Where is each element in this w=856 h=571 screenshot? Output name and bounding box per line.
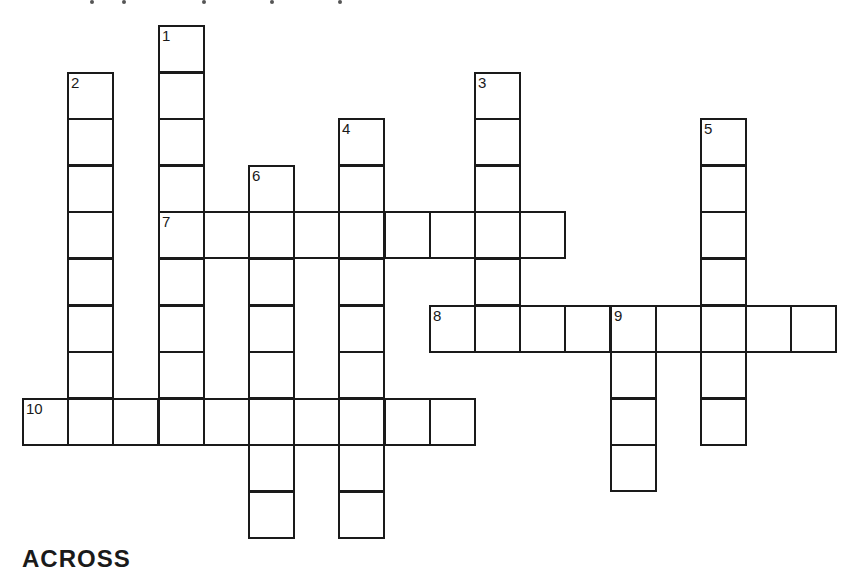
letter-input[interactable] xyxy=(250,307,293,351)
crossword-cell[interactable]: 4 xyxy=(338,118,385,166)
crossword-cell[interactable]: 2 xyxy=(67,72,114,120)
crossword-cell[interactable]: 9 xyxy=(610,305,657,353)
letter-input[interactable] xyxy=(340,213,383,257)
letter-input[interactable] xyxy=(160,400,203,444)
crossword-cell[interactable] xyxy=(700,211,747,259)
crossword-cell[interactable] xyxy=(338,351,385,399)
letter-input[interactable] xyxy=(69,400,112,444)
letter-input[interactable] xyxy=(160,307,203,351)
crossword-cell[interactable]: 1 xyxy=(158,25,205,73)
crossword-cell[interactable] xyxy=(610,351,657,399)
letter-input[interactable] xyxy=(340,120,383,164)
crossword-cell[interactable] xyxy=(248,444,295,492)
crossword-cell[interactable] xyxy=(429,211,476,259)
letter-input[interactable] xyxy=(476,120,519,164)
crossword-cell[interactable] xyxy=(67,305,114,353)
crossword-cell[interactable] xyxy=(248,398,295,446)
crossword-cell[interactable] xyxy=(248,258,295,306)
letter-input[interactable] xyxy=(250,353,293,397)
crossword-cell[interactable] xyxy=(248,211,295,259)
crossword-cell[interactable] xyxy=(158,351,205,399)
letter-input[interactable] xyxy=(250,260,293,304)
letter-input[interactable] xyxy=(386,213,429,257)
crossword-cell[interactable] xyxy=(700,165,747,213)
letter-input[interactable] xyxy=(521,307,564,351)
letter-input[interactable] xyxy=(250,493,293,537)
letter-input[interactable] xyxy=(612,446,655,490)
letter-input[interactable] xyxy=(69,307,112,351)
crossword-cell[interactable] xyxy=(790,305,837,353)
letter-input[interactable] xyxy=(747,307,790,351)
letter-input[interactable] xyxy=(612,307,655,351)
crossword-cell[interactable] xyxy=(745,305,792,353)
crossword-cell[interactable] xyxy=(338,211,385,259)
letter-input[interactable] xyxy=(250,213,293,257)
letter-input[interactable] xyxy=(476,260,519,304)
crossword-cell[interactable] xyxy=(519,305,566,353)
letter-input[interactable] xyxy=(160,353,203,397)
letter-input[interactable] xyxy=(702,213,745,257)
crossword-cell[interactable] xyxy=(564,305,611,353)
crossword-cell[interactable] xyxy=(158,258,205,306)
letter-input[interactable] xyxy=(702,260,745,304)
crossword-cell[interactable] xyxy=(338,444,385,492)
letter-input[interactable] xyxy=(69,167,112,211)
letter-input[interactable] xyxy=(69,74,112,118)
letter-input[interactable] xyxy=(431,400,474,444)
letter-input[interactable] xyxy=(250,400,293,444)
letter-input[interactable] xyxy=(160,213,203,257)
letter-input[interactable] xyxy=(612,400,655,444)
letter-input[interactable] xyxy=(69,120,112,164)
letter-input[interactable] xyxy=(431,213,474,257)
crossword-cell[interactable] xyxy=(338,165,385,213)
letter-input[interactable] xyxy=(792,307,835,351)
letter-input[interactable] xyxy=(160,27,203,71)
letter-input[interactable] xyxy=(250,167,293,211)
crossword-cell[interactable] xyxy=(67,351,114,399)
letter-input[interactable] xyxy=(69,213,112,257)
crossword-cell[interactable] xyxy=(429,398,476,446)
crossword-cell[interactable] xyxy=(158,72,205,120)
crossword-cell[interactable] xyxy=(700,398,747,446)
letter-input[interactable] xyxy=(160,167,203,211)
crossword-cell[interactable] xyxy=(610,398,657,446)
crossword-cell[interactable] xyxy=(67,211,114,259)
letter-input[interactable] xyxy=(340,307,383,351)
crossword-cell[interactable] xyxy=(338,258,385,306)
crossword-cell[interactable]: 8 xyxy=(429,305,476,353)
crossword-cell[interactable] xyxy=(338,491,385,539)
letter-input[interactable] xyxy=(476,213,519,257)
crossword-cell[interactable] xyxy=(474,258,521,306)
crossword-cell[interactable]: 10 xyxy=(22,398,69,446)
letter-input[interactable] xyxy=(702,120,745,164)
letter-input[interactable] xyxy=(340,353,383,397)
letter-input[interactable] xyxy=(24,400,67,444)
letter-input[interactable] xyxy=(340,260,383,304)
crossword-cell[interactable] xyxy=(655,305,702,353)
crossword-cell[interactable] xyxy=(474,118,521,166)
letter-input[interactable] xyxy=(295,400,338,444)
letter-input[interactable] xyxy=(160,120,203,164)
letter-input[interactable] xyxy=(205,213,248,257)
crossword-cell[interactable] xyxy=(519,211,566,259)
crossword-cell[interactable] xyxy=(293,211,340,259)
crossword-cell[interactable] xyxy=(338,305,385,353)
letter-input[interactable] xyxy=(386,400,429,444)
letter-input[interactable] xyxy=(69,353,112,397)
crossword-cell[interactable] xyxy=(700,351,747,399)
crossword-cell[interactable] xyxy=(384,211,431,259)
crossword-cell[interactable] xyxy=(248,491,295,539)
crossword-cell[interactable] xyxy=(158,165,205,213)
crossword-cell[interactable] xyxy=(112,398,159,446)
letter-input[interactable] xyxy=(431,307,474,351)
crossword-cell[interactable] xyxy=(158,398,205,446)
crossword-cell[interactable] xyxy=(610,444,657,492)
crossword-cell[interactable] xyxy=(293,398,340,446)
crossword-cell[interactable] xyxy=(203,398,250,446)
crossword-cell[interactable] xyxy=(67,258,114,306)
crossword-cell[interactable] xyxy=(338,398,385,446)
letter-input[interactable] xyxy=(521,213,564,257)
crossword-cell[interactable]: 5 xyxy=(700,118,747,166)
crossword-cell[interactable]: 3 xyxy=(474,72,521,120)
letter-input[interactable] xyxy=(160,260,203,304)
